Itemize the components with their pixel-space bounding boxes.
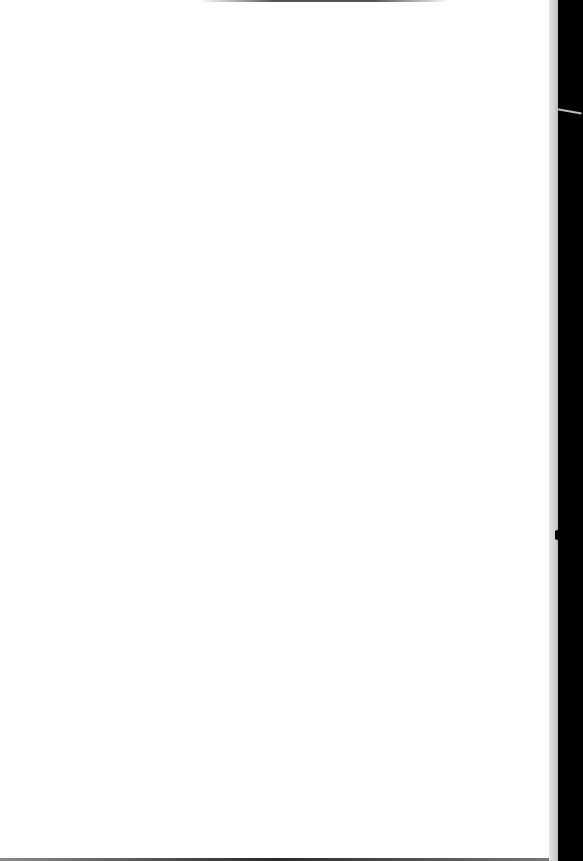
scanner-background	[558, 0, 583, 861]
edge-nick	[555, 530, 559, 540]
page-edge-strip	[549, 0, 558, 861]
top-edge-shadow	[200, 0, 450, 2]
blank-page	[0, 0, 553, 861]
